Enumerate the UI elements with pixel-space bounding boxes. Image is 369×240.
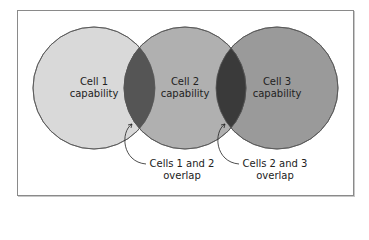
cell-2-label: Cell 2 capability [145,76,225,100]
cell-1-label: Cell 1 capability [54,76,134,100]
callout-2-3-label: Cells 2 and 3 overlap [235,158,315,182]
callout-1-2-label: Cells 1 and 2 overlap [142,158,222,182]
cell-3-label: Cell 3 capability [237,76,317,100]
